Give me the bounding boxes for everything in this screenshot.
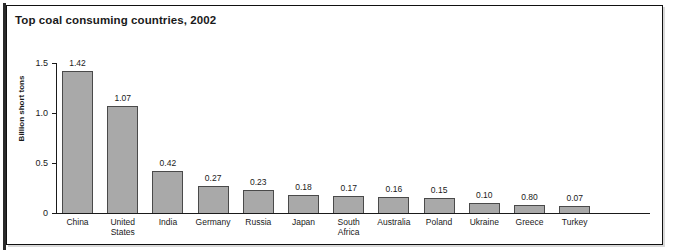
y-tick-label: 1.0 xyxy=(22,109,48,118)
x-category-label: Turkey xyxy=(550,217,599,227)
bar-value-label: 0.10 xyxy=(462,191,507,200)
bar[interactable] xyxy=(424,198,455,213)
bar-value-label: 0.18 xyxy=(281,183,326,192)
bar-value-label: 0.16 xyxy=(371,185,416,194)
x-category-label: China xyxy=(53,217,102,227)
bar[interactable] xyxy=(198,186,229,213)
y-tick-mark xyxy=(52,163,56,164)
x-category-label: Japan xyxy=(279,217,328,227)
bar[interactable] xyxy=(559,206,590,213)
y-axis-line xyxy=(56,63,57,214)
x-category-label: Australia xyxy=(369,217,418,227)
bar-value-label: 0.23 xyxy=(236,178,281,187)
bar[interactable] xyxy=(62,71,93,213)
y-tick-label: 1.5 xyxy=(22,59,48,68)
x-category-label: India xyxy=(143,217,192,227)
x-category-label: South Africa xyxy=(324,217,373,237)
bar[interactable] xyxy=(333,196,364,213)
bar-value-label: 0.07 xyxy=(552,194,597,203)
x-category-label: Russia xyxy=(234,217,283,227)
bar[interactable] xyxy=(469,203,500,213)
x-category-label: United States xyxy=(98,217,147,237)
bar[interactable] xyxy=(152,171,183,213)
chart-figure: Top coal consuming countries, 2002 Billi… xyxy=(0,0,675,251)
bar-value-label: 0.17 xyxy=(326,184,371,193)
x-category-label: Greece xyxy=(505,217,554,227)
bar-value-label: 0.15 xyxy=(417,186,462,195)
y-tick-label: 0 xyxy=(22,209,48,218)
bar-value-label: 1.42 xyxy=(55,59,100,68)
y-tick-mark xyxy=(52,213,56,214)
x-category-label: Ukraine xyxy=(460,217,509,227)
x-axis-line xyxy=(56,213,650,214)
y-tick-mark xyxy=(52,113,56,114)
bar-value-label: 0.80 xyxy=(507,193,552,202)
bar[interactable] xyxy=(243,190,274,213)
bar-value-label: 0.42 xyxy=(145,159,190,168)
plot-area: Billion short tons 00.51.01.5 1.42China1… xyxy=(0,0,675,251)
bar-value-label: 1.07 xyxy=(100,94,145,103)
y-tick-label: 0.5 xyxy=(22,159,48,168)
bar[interactable] xyxy=(378,197,409,213)
bar[interactable] xyxy=(288,195,319,213)
bar[interactable] xyxy=(107,106,138,213)
x-category-label: Germany xyxy=(189,217,238,227)
bar[interactable] xyxy=(514,205,545,213)
x-category-label: Poland xyxy=(415,217,464,227)
bar-value-label: 0.27 xyxy=(191,174,236,183)
